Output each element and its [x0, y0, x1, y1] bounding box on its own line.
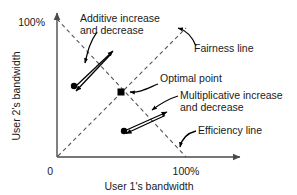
- fairness-line-label: Fairness line: [194, 42, 254, 54]
- additive-increase-arrow: [77, 51, 114, 86]
- optimal-point-leader: [130, 84, 158, 92]
- additive-leader: [85, 32, 97, 63]
- multiplicative-label-line2: and decrease: [180, 101, 244, 113]
- diagram-canvas: 100% 0 100% User 1's bandwidth User 2's …: [0, 0, 297, 195]
- additive-label-line2: and decrease: [80, 24, 144, 36]
- multiplicative-leader: [152, 96, 178, 110]
- y-tick-label-100: 100%: [18, 16, 45, 28]
- multiplicative-label-line1: Multiplicative increase: [180, 89, 283, 101]
- aimd-fairness-efficiency-figure: 100% 0 100% User 1's bandwidth User 2's …: [0, 0, 297, 195]
- optimal-point-marker: [118, 89, 125, 96]
- tick-labels-group: 100% 0 100%: [18, 16, 199, 177]
- additive-start-point: [71, 83, 77, 89]
- efficiency-leader: [180, 131, 196, 147]
- annotation-leaders-group: [85, 28, 196, 147]
- multiplicative-decrease-arrow: [126, 116, 165, 134]
- optimal-point-group: [118, 89, 125, 96]
- x-tick-label-100: 100%: [173, 165, 200, 177]
- additive-decrease-arrow: [76, 55, 110, 91]
- y-axis-title: User 2's bandwidth: [10, 51, 22, 140]
- optimal-point-label: Optimal point: [160, 72, 222, 84]
- multiplicative-trajectory-group: [121, 112, 167, 134]
- origin-label: 0: [47, 165, 53, 177]
- efficiency-line-label: Efficiency line: [198, 124, 262, 136]
- additive-label-line1: Additive increase: [80, 12, 160, 24]
- x-axis-title: User 1's bandwidth: [105, 180, 194, 192]
- annotation-text-group: Additive increase and decrease Fairness …: [80, 12, 283, 136]
